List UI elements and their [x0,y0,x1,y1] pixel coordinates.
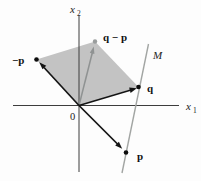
p-point [124,150,129,155]
line-m-label: M [152,49,163,61]
p-label: p [137,150,143,162]
q-minus-p-label: q − p [103,31,127,43]
diagram-canvas: x 2 x 1 0 M q − p −p q p [0,0,201,181]
vector-p-shaft [79,106,118,145]
q-label: q [147,82,154,94]
x1-axis-subscript: 1 [193,106,197,115]
vector-q-arrowhead [129,88,137,93]
x1-axis-label: x [185,100,191,112]
minus-p-point [34,57,39,62]
minus-p-label: −p [12,54,24,66]
q-minus-p-point [93,39,97,43]
x2-axis-subscript: 2 [77,9,81,18]
x2-axis-label: x [69,3,75,15]
vector-diagram-figure: x 2 x 1 0 M q − p −p q p [0,0,201,181]
origin-label: 0 [70,111,75,122]
q-point [136,85,141,90]
